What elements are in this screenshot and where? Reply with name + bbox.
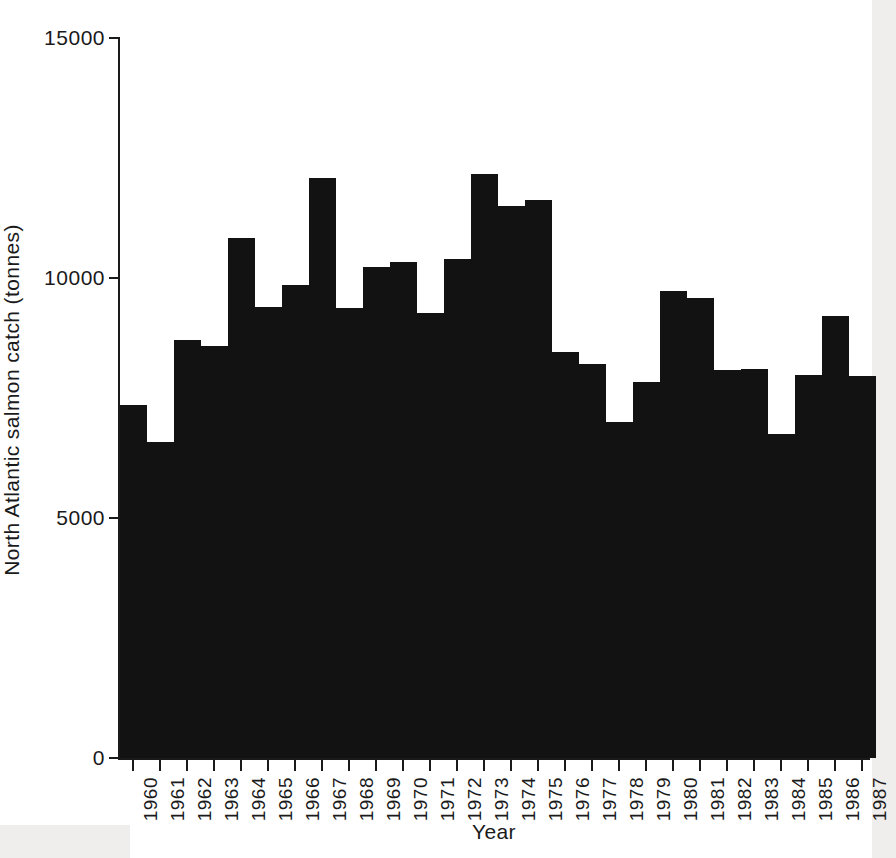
bar-1971 [417,313,444,758]
x-axis-tick [321,760,323,771]
x-axis-tick [294,760,296,771]
x-axis-tick [726,760,728,771]
x-axis-tick-label: 1972 [464,777,486,821]
x-axis-tick [510,760,512,771]
y-axis-tick [109,37,120,39]
x-axis-tick-label: 1966 [302,777,324,821]
scan-artifact [0,825,130,858]
x-axis-tick [132,760,134,771]
bar-1967 [309,178,336,758]
y-axis-tick [109,277,120,279]
x-axis-tick-label: 1977 [599,777,621,821]
bar-1986 [822,316,849,758]
bar-1975 [525,200,552,758]
x-axis-tick-label: 1964 [248,777,270,821]
x-axis-tick [240,760,242,771]
bar-1981 [687,298,714,758]
x-axis-tick [618,760,620,771]
x-axis-tick-label: 1986 [842,777,864,821]
bar-1977 [579,364,606,758]
x-axis-tick-label: 1987 [869,777,891,821]
x-axis-tick-label: 1981 [707,777,729,821]
x-axis-tick [591,760,593,771]
x-axis-tick [807,760,809,771]
x-axis-tick-label: 1971 [437,777,459,821]
bar-1987 [849,376,876,758]
x-axis-tick-label: 1976 [572,777,594,821]
bar-1982 [714,370,741,758]
x-axis-tick-label: 1982 [734,777,756,821]
x-axis-tick [348,760,350,771]
y-axis-title: North Atlantic salmon catch (tonnes) [0,224,24,576]
bar-1964 [228,238,255,758]
x-axis-tick [834,760,836,771]
x-axis-tick-label: 1960 [140,777,162,821]
x-axis-tick [159,760,161,771]
x-axis-tick-label: 1980 [680,777,702,821]
x-axis-tick-label: 1961 [167,777,189,821]
y-axis-tick [109,517,120,519]
x-axis-tick [456,760,458,771]
bar-1976 [552,352,579,758]
x-axis-tick [780,760,782,771]
bar-1983 [741,369,768,758]
x-axis-tick-label: 1967 [329,777,351,821]
y-axis-tick-label: 0 [0,746,105,770]
bar-1969 [363,267,390,758]
bar-1968 [336,308,363,758]
x-axis-tick [375,760,377,771]
x-axis-tick-label: 1978 [626,777,648,821]
bar-1970 [390,262,417,758]
bar-1984 [768,434,795,758]
x-axis-tick-label: 1979 [653,777,675,821]
x-axis-tick [564,760,566,771]
x-axis-tick [429,760,431,771]
x-axis-tick-label: 1975 [545,777,567,821]
x-axis-tick [483,760,485,771]
x-axis-title: Year [118,820,870,844]
x-axis-tick-label: 1969 [383,777,405,821]
x-axis-tick [753,760,755,771]
bar-1974 [498,206,525,758]
x-axis-tick [267,760,269,771]
x-axis-tick [861,760,863,771]
bar-1973 [471,174,498,758]
x-axis-tick [402,760,404,771]
x-axis-tick-label: 1974 [518,777,540,821]
bar-1966 [282,285,309,758]
bar-1972 [444,259,471,758]
bar-1961 [147,442,174,758]
x-axis-tick-label: 1965 [275,777,297,821]
x-axis-tick-label: 1973 [491,777,513,821]
y-axis-tick [109,757,120,759]
bar-1978 [606,422,633,758]
bar-1963 [201,346,228,758]
y-axis-tick-label: 15000 [0,26,105,50]
bar-1960 [120,405,147,758]
x-axis-tick [672,760,674,771]
x-axis-tick [645,760,647,771]
bar-1979 [633,382,660,758]
x-axis-line [118,758,870,760]
x-axis-tick [186,760,188,771]
x-axis-tick-label: 1963 [221,777,243,821]
x-axis-tick [213,760,215,771]
bar-1985 [795,375,822,758]
x-axis-tick-label: 1984 [788,777,810,821]
bar-chart-figure: 050001000015000 196019611962196319641965… [0,0,896,858]
bar-1965 [255,307,282,758]
bar-1962 [174,340,201,758]
x-axis-tick-label: 1968 [356,777,378,821]
x-axis-tick-label: 1962 [194,777,216,821]
x-axis-tick-label: 1985 [815,777,837,821]
x-axis-tick-label: 1970 [410,777,432,821]
x-axis-tick [537,760,539,771]
x-axis-tick-label: 1983 [761,777,783,821]
x-axis-tick [699,760,701,771]
bar-1980 [660,291,687,758]
scan-artifact [872,0,896,858]
